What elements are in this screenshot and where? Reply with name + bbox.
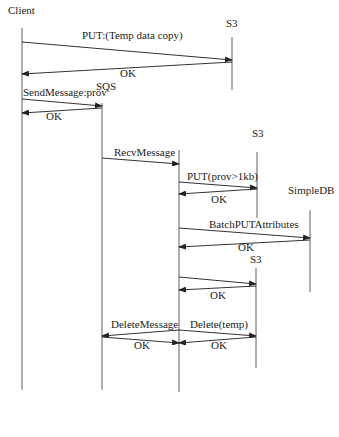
message-label: BatchPUTAttributes [209, 218, 299, 230]
message-arrow [22, 108, 102, 113]
lifelines [22, 28, 310, 392]
message-arrow [102, 330, 179, 336]
message-label: SendMessage:prov [23, 86, 107, 98]
participant-label-s3_b: S3 [252, 127, 264, 139]
participant-label-s3_c: S3 [250, 253, 262, 265]
message-arrow [22, 42, 232, 60]
message-arrow [22, 99, 102, 106]
message-label: PUT(prov>1kb) [187, 170, 258, 183]
message-label: OK [120, 67, 136, 79]
message-label: OK [211, 339, 227, 351]
message-arrow [179, 182, 257, 188]
participant-label-client: Client [8, 4, 35, 16]
message-label: OK [46, 110, 62, 122]
message-label: OK [210, 289, 226, 301]
labels: ClientS3SQSS3SimpleDBS3PUT:(Temp data co… [8, 4, 334, 351]
message-label: OK [238, 241, 254, 253]
message-label: Delete(temp) [190, 318, 248, 331]
participant-label-s3_a: S3 [226, 17, 238, 29]
message-label: OK [211, 193, 227, 205]
message-label: PUT:(Temp data copy) [82, 29, 183, 42]
message-arrow [102, 158, 179, 164]
message-arrow [179, 330, 256, 336]
message-label: OK [134, 339, 150, 351]
participant-label-simpledb: SimpleDB [288, 184, 334, 196]
sequence-diagram: ClientS3SQSS3SimpleDBS3PUT:(Temp data co… [0, 0, 339, 437]
message-label: DeleteMessage [111, 318, 178, 330]
message-label: RecvMessage [114, 146, 175, 158]
message-arrow [179, 277, 256, 284]
